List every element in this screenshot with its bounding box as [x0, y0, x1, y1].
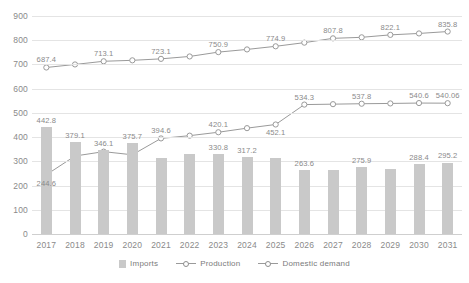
chart-legend: ImportsProductionDomestic demand — [0, 259, 469, 268]
gridline — [32, 64, 462, 65]
plot-area: 442.8379.1346.1375.7330.8317.2263.6275.9… — [32, 16, 462, 234]
bar-2023 — [213, 154, 224, 234]
x-axis-tick-label: 2024 — [237, 240, 257, 250]
y-axis-tick-label: 200 — [0, 181, 28, 191]
point-value-label: 835.8 — [438, 20, 458, 29]
data-point-marker — [273, 122, 278, 127]
point-value-label: 420.1 — [209, 120, 229, 129]
x-axis-tick-label: 2030 — [409, 240, 429, 250]
bar-value-label: 295.2 — [438, 151, 458, 160]
legend-line-marker-icon — [176, 260, 196, 268]
bar-2018 — [70, 142, 81, 234]
x-axis-tick-label: 2026 — [294, 240, 314, 250]
bar-value-label: 375.7 — [123, 132, 143, 141]
bar-2019 — [98, 150, 109, 234]
data-point-marker — [445, 29, 450, 34]
data-point-marker — [244, 126, 249, 131]
y-axis-tick-label: 0 — [0, 229, 28, 239]
bar-2030 — [414, 164, 425, 234]
point-value-label: 540.06 — [436, 91, 460, 100]
chart-container: 442.8379.1346.1375.7330.8317.2263.6275.9… — [0, 0, 469, 283]
point-value-label: 540.6 — [409, 91, 429, 100]
point-value-label: 534.3 — [295, 93, 315, 102]
x-axis-tick-label: 2028 — [352, 240, 372, 250]
legend-label: Domestic demand — [282, 259, 349, 268]
data-point-marker — [101, 59, 106, 64]
data-point-marker — [388, 101, 393, 106]
gridline — [32, 113, 462, 114]
y-axis-tick-label: 700 — [0, 59, 28, 69]
y-axis-tick-label: 900 — [0, 11, 28, 21]
legend-item[interactable]: Production — [176, 259, 240, 268]
legend-item[interactable]: Domestic demand — [258, 259, 349, 268]
bar-value-label: 317.2 — [237, 146, 257, 155]
x-axis-tick-label: 2018 — [65, 240, 85, 250]
data-point-marker — [216, 130, 221, 135]
point-value-label: 452.1 — [266, 128, 286, 137]
legend-label: Production — [200, 259, 240, 268]
bar-value-label: 379.1 — [65, 131, 85, 140]
bar-2027 — [328, 170, 339, 234]
y-axis-tick-label: 400 — [0, 132, 28, 142]
data-point-marker — [445, 101, 450, 106]
data-point-marker — [216, 50, 221, 55]
point-value-label: 537.8 — [352, 92, 372, 101]
bar-2031 — [442, 163, 453, 235]
data-point-marker — [302, 102, 307, 107]
point-value-label: 750.9 — [209, 40, 229, 49]
bar-value-label: 263.6 — [295, 159, 315, 168]
data-point-marker — [244, 47, 249, 52]
data-point-marker — [273, 44, 278, 49]
data-point-marker — [416, 100, 421, 105]
data-point-marker — [187, 54, 192, 59]
bar-value-label: 346.1 — [94, 139, 114, 148]
bar-2024 — [242, 157, 253, 234]
data-point-marker — [130, 58, 135, 63]
legend-line-marker-icon — [258, 260, 278, 268]
point-value-label: 713.1 — [94, 49, 114, 58]
y-axis-tick-label: 100 — [0, 205, 28, 215]
x-axis-tick-label: 2019 — [94, 240, 114, 250]
point-value-label: 723.1 — [151, 47, 171, 56]
point-value-label: 244.6 — [37, 179, 57, 188]
point-value-label: 807.8 — [323, 26, 343, 35]
gridline — [32, 40, 462, 41]
x-axis-tick-label: 2020 — [122, 240, 142, 250]
x-axis-tick-label: 2027 — [323, 240, 343, 250]
x-axis-tick-label: 2023 — [208, 240, 228, 250]
y-axis-tick-label: 300 — [0, 156, 28, 166]
y-axis-tick-label: 600 — [0, 84, 28, 94]
x-axis-tick-label: 2029 — [380, 240, 400, 250]
data-point-marker — [44, 65, 49, 70]
x-axis-tick-label: 2022 — [180, 240, 200, 250]
data-point-marker — [158, 56, 163, 61]
x-axis-tick-label: 2025 — [266, 240, 286, 250]
y-axis-tick-label: 800 — [0, 35, 28, 45]
legend-label: Imports — [130, 259, 158, 268]
bar-value-label: 275.9 — [352, 156, 372, 165]
point-value-label: 774.9 — [266, 34, 286, 43]
point-value-label: 822.1 — [381, 23, 401, 32]
point-value-label: 687.4 — [37, 55, 57, 64]
legend-bar-swatch-icon — [119, 260, 126, 268]
bar-2025 — [270, 158, 281, 234]
x-axis-tick-label: 2017 — [36, 240, 56, 250]
bar-2028 — [356, 167, 367, 234]
gridline — [32, 234, 462, 235]
y-axis-tick-label: 500 — [0, 108, 28, 118]
data-point-marker — [330, 102, 335, 107]
bar-2022 — [184, 154, 195, 234]
legend-item[interactable]: Imports — [119, 259, 158, 268]
data-point-marker — [359, 101, 364, 106]
gridline — [32, 137, 462, 138]
gridline — [32, 89, 462, 90]
x-axis-tick-label: 2021 — [151, 240, 171, 250]
bar-value-label: 288.4 — [409, 153, 429, 162]
bar-2020 — [127, 143, 138, 234]
bar-2026 — [299, 170, 310, 234]
bar-value-label: 330.8 — [209, 143, 229, 152]
bar-2021 — [156, 158, 167, 234]
bar-value-label: 442.8 — [37, 116, 57, 125]
data-point-marker — [388, 32, 393, 37]
bar-2029 — [385, 169, 396, 234]
